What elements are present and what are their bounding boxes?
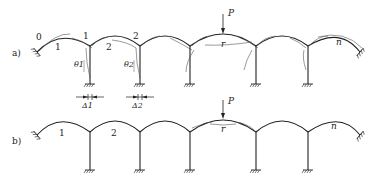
arch-label-0: 0 [36, 32, 42, 42]
pier-supports-a [84, 84, 313, 87]
pier-supports-b [84, 170, 313, 173]
arch-label-2-b: 2 [111, 128, 117, 138]
left-abutment-a [31, 47, 40, 57]
panel-b: b) [12, 96, 366, 173]
arches-b [37, 120, 360, 135]
panel-label-b: b) [12, 136, 21, 146]
arch-label-r: r [221, 39, 226, 49]
piers-b [90, 132, 308, 170]
left-abutment-b [31, 130, 40, 140]
load-label-p-b: P [227, 96, 235, 106]
panel-label-a: a) [12, 48, 21, 58]
delta-1-label: Δ1 [81, 101, 93, 110]
piers-a [90, 46, 308, 84]
load-arrow-b [221, 100, 225, 119]
load-label-p-a: P [227, 8, 235, 18]
displacement-arrowheads [83, 96, 147, 99]
node-label-1: 1 [83, 31, 89, 41]
deformed-piers-a [86, 48, 306, 78]
delta-2-label: Δ2 [131, 101, 143, 110]
load-arrow-a [221, 14, 225, 34]
theta-2-label: θ2 [124, 60, 134, 69]
arch-label-r-b: r [221, 124, 226, 134]
arch-label-1: 1 [55, 42, 61, 52]
theta-1-label: θ1 [74, 60, 84, 69]
multi-span-arch-diagram: a) [0, 0, 372, 184]
node-label-2: 2 [133, 31, 139, 41]
arch-label-n-b: n [331, 121, 337, 131]
arch-label-2: 2 [106, 42, 112, 52]
arch-label-n: n [336, 37, 342, 47]
panel-a: a) [12, 8, 366, 110]
arch-label-1-b: 1 [59, 128, 65, 138]
